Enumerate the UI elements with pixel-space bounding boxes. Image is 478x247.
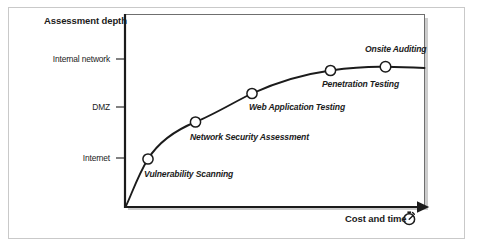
data-point-penetration-testing[interactable] [325,65,335,75]
data-label-penetration-testing: Penetration Testing [322,80,399,89]
y-tick-label-internal-network: Internal network [31,55,110,63]
y-axis-title: Assessment depth [44,16,127,26]
chart-canvas [0,0,478,247]
data-label-web-application-testing: Web Application Testing [249,103,345,112]
data-label-network-security-assessment: Network Security Assessment [190,133,309,142]
figure-container: Assessment depth Cost and time Internal … [0,0,478,247]
data-point-network-security-assessment[interactable] [190,117,200,127]
data-label-vulnerability-scanning: Vulnerability Scanning [144,170,233,179]
y-tick-label-internet: Internet [31,154,110,162]
data-point-web-application-testing[interactable] [247,88,257,98]
y-tick-label-dmz: DMZ [31,103,110,111]
data-point-onsite-auditing[interactable] [380,62,391,73]
x-axis-title: Cost and time [345,214,407,224]
data-point-vulnerability-scanning[interactable] [143,154,153,164]
data-label-onsite-auditing: Onsite Auditing [365,45,426,54]
